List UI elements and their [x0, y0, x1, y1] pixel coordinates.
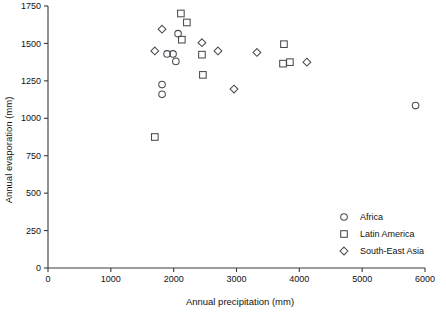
data-point — [179, 36, 186, 43]
data-point — [178, 10, 185, 17]
data-point — [152, 134, 159, 141]
data-point — [214, 47, 222, 55]
y-tick-label: 250 — [26, 226, 41, 236]
x-tick-label: 5000 — [352, 274, 372, 284]
legend-label: South-East Asia — [360, 246, 424, 256]
x-tick-label: 2000 — [164, 274, 184, 284]
data-point — [159, 81, 166, 88]
data-points — [151, 10, 419, 140]
y-axis-title: Annual evaporation (mm) — [3, 97, 14, 204]
legend-marker-diamond — [340, 247, 348, 255]
x-tick-label: 4000 — [289, 274, 309, 284]
scatter-chart: 02505007501000125015001750 0100020003000… — [0, 0, 446, 314]
data-point — [151, 47, 159, 55]
data-point — [200, 72, 207, 79]
y-tick-label: 1500 — [21, 39, 41, 49]
y-tick-label: 500 — [26, 188, 41, 198]
y-tick-label: 0 — [36, 263, 41, 273]
data-point — [412, 102, 419, 109]
data-point — [159, 91, 166, 98]
data-point — [158, 25, 166, 33]
x-tick-label: 0 — [45, 274, 50, 284]
x-tick-label: 1000 — [101, 274, 121, 284]
y-tick-label: 750 — [26, 151, 41, 161]
data-point — [280, 60, 287, 67]
data-point — [253, 49, 261, 57]
x-axis-title: Annual precipitation (mm) — [186, 296, 294, 307]
legend-label: Africa — [360, 212, 383, 222]
y-axis-ticks: 02505007501000125015001750 — [21, 1, 48, 273]
data-point — [281, 41, 288, 48]
series-latin-america — [152, 10, 294, 140]
data-point — [230, 85, 238, 93]
x-axis-ticks: 0100020003000400050006000 — [45, 268, 435, 284]
y-tick-label: 1750 — [21, 1, 41, 11]
data-point — [198, 39, 206, 47]
x-tick-label: 3000 — [226, 274, 246, 284]
data-point — [173, 58, 180, 65]
legend: AfricaLatin AmericaSouth-East Asia — [340, 212, 424, 256]
data-point — [287, 59, 294, 66]
data-point — [199, 51, 206, 58]
legend-marker-circle — [341, 214, 348, 221]
data-point — [184, 19, 191, 26]
legend-marker-square — [341, 231, 348, 238]
x-tick-label: 6000 — [415, 274, 435, 284]
y-tick-label: 1250 — [21, 76, 41, 86]
data-point — [303, 58, 311, 66]
legend-label: Latin America — [360, 229, 415, 239]
y-tick-label: 1000 — [21, 113, 41, 123]
series-africa — [159, 30, 419, 108]
